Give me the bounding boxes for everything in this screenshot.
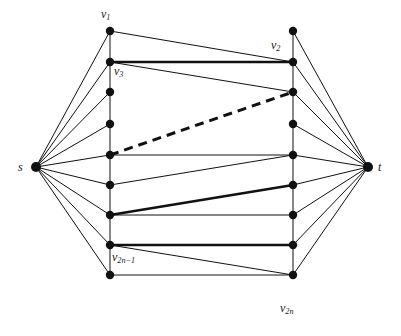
graph-figure xyxy=(0,0,401,336)
node-left-4 xyxy=(106,151,114,159)
node-source-s xyxy=(31,162,41,172)
node-right-3 xyxy=(289,120,297,128)
label-v1: v1 xyxy=(101,8,110,22)
node-left-6 xyxy=(106,211,114,219)
node-left-2 xyxy=(106,88,114,96)
label-v2-sub: 2 xyxy=(276,44,280,53)
node-left-3 xyxy=(106,120,114,128)
node-sink-t xyxy=(363,162,373,172)
label-v3: v3 xyxy=(114,65,123,79)
node-left-0 xyxy=(106,27,114,35)
node-left-7 xyxy=(106,241,114,249)
node-left-1 xyxy=(106,58,114,66)
node-right-2 xyxy=(289,88,297,96)
node-right-0 xyxy=(289,27,297,35)
node-right-8 xyxy=(289,271,297,279)
label-v2: v2 xyxy=(271,39,280,53)
label-v2n-minus-1-sub: 2n−1 xyxy=(117,256,135,265)
label-v2n: v2n xyxy=(280,302,293,316)
node-right-7 xyxy=(289,241,297,249)
label-v1-sub: 1 xyxy=(106,13,110,22)
node-right-1 xyxy=(289,58,297,66)
node-left-5 xyxy=(106,181,114,189)
node-right-4 xyxy=(289,151,297,159)
label-sink-t: t xyxy=(378,161,381,173)
label-v2n-minus-1: v2n−1 xyxy=(112,251,135,265)
node-right-6 xyxy=(289,211,297,219)
figure-background xyxy=(0,0,401,336)
label-source-s: s xyxy=(18,161,23,173)
node-right-5 xyxy=(289,181,297,189)
label-v3-sub: 3 xyxy=(119,70,123,79)
node-left-8 xyxy=(106,271,114,279)
label-v2n-sub: 2n xyxy=(285,307,293,316)
